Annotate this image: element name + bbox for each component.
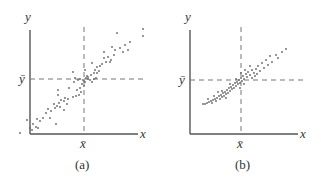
data-point [60,99,62,101]
data-point [245,73,247,75]
data-point [206,102,208,104]
data-point [94,69,96,71]
data-point [49,117,51,119]
data-point [261,62,263,64]
scatter-points [19,28,144,134]
data-point [78,94,80,96]
data-point [83,85,85,87]
data-point [72,96,74,98]
data-point [59,106,61,108]
data-point [19,132,21,134]
data-point [93,72,95,74]
data-point [64,97,66,99]
data-point [42,117,44,119]
data-point [63,109,65,111]
data-point [86,75,88,77]
data-point [122,51,124,53]
data-point [225,97,227,99]
data-point [57,89,59,91]
data-point [39,120,41,122]
data-point [114,49,116,51]
x-mean-label: x̄ [79,136,86,151]
data-point [222,92,224,94]
data-point [241,80,243,82]
data-point [75,95,77,97]
data-point [231,88,233,90]
data-point [265,59,267,61]
panel-caption: (a) [75,157,89,172]
data-point [242,75,244,77]
data-point [66,103,68,105]
data-point [79,87,81,89]
data-point [110,59,112,61]
data-point [243,78,245,80]
data-point [223,95,225,97]
data-point [47,108,49,110]
data-point [220,94,222,96]
data-point [207,98,209,100]
data-point [244,69,246,71]
data-point [246,76,248,78]
data-point [254,75,256,77]
data-point [31,129,33,131]
data-point [214,98,216,100]
data-point [93,78,95,80]
data-point [235,78,237,80]
data-point [269,55,271,57]
scatter-points [202,48,287,105]
data-point [84,81,86,83]
data-point [237,83,239,85]
data-point [58,102,60,104]
data-point [91,81,93,83]
data-point [226,89,228,91]
data-point [204,103,206,105]
data-point [277,57,279,59]
data-point [26,119,28,121]
data-point [89,79,91,81]
y-axis-label: y [23,9,31,24]
data-point [259,70,261,72]
data-point [213,95,215,97]
data-point [221,90,223,92]
data-point [67,98,69,100]
data-point [240,77,242,79]
data-point [225,93,227,95]
data-point [95,77,97,79]
data-point [217,91,219,93]
data-point [55,123,57,125]
data-point [235,85,237,87]
data-point [63,100,65,102]
data-point [79,78,81,80]
y-mean-label: ȳ [177,72,185,87]
panel-b: y x ȳ x̄ (b) [177,9,306,172]
data-point [85,77,87,79]
data-point [81,83,83,85]
data-point [239,82,241,84]
data-point [218,95,220,97]
data-point [103,57,105,59]
data-point [72,71,74,73]
data-point [271,61,273,63]
data-point [232,84,234,86]
data-point [221,96,223,98]
data-point [111,46,113,48]
data-point [234,82,236,84]
data-point [202,103,204,105]
data-point [142,28,144,30]
data-point [211,102,213,104]
data-point [45,112,47,114]
data-point [247,71,249,73]
data-point [216,97,218,99]
y-mean-label: ȳ [17,71,25,86]
panel-caption: (b) [235,157,250,172]
data-point [57,94,59,96]
data-point [285,48,287,50]
data-point [124,44,126,46]
data-point [98,70,100,72]
data-point [116,32,118,34]
data-point [233,87,235,89]
data-point [82,79,84,81]
data-point [50,110,52,112]
data-point [105,61,107,63]
data-point [56,105,58,107]
